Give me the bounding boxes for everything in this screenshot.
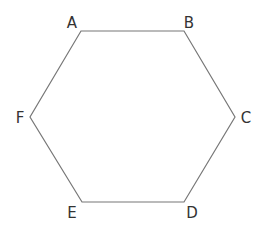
vertex-label-c: C xyxy=(241,109,251,127)
vertex-label-b: B xyxy=(184,14,194,32)
vertex-label-a: A xyxy=(67,14,78,32)
vertex-label-d: D xyxy=(186,204,198,222)
hexagon-shape xyxy=(30,31,235,202)
vertex-label-f: F xyxy=(16,109,25,127)
hexagon-diagram: A B C D E F xyxy=(0,0,266,234)
vertex-labels: A B C D E F xyxy=(16,14,252,222)
vertex-label-e: E xyxy=(67,204,76,222)
